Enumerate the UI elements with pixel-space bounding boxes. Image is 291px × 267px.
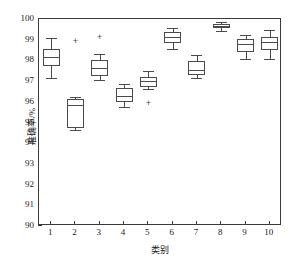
x-tick-label: 9 [234,228,256,237]
x-tick-mark [172,221,173,225]
x-tick-label: 5 [136,228,158,237]
x-axis-label: 类别 [38,243,281,256]
x-tick-mark [74,221,75,225]
x-tick-label: 10 [258,228,280,237]
median-line [261,42,278,43]
chart-root: 准确率/% 90919293949596979899100 +++ 123456… [0,0,291,267]
whisker-lower [270,50,271,59]
y-tick-label: 98 [4,55,34,64]
box-iqr [261,37,278,50]
x-tick-label: 4 [112,228,134,237]
x-tick-mark [220,221,221,225]
x-tick-label: 1 [39,228,61,237]
whisker-cap-upper [264,30,275,31]
x-tick-mark [269,221,270,225]
whisker-cap-lower [264,59,275,60]
y-tick-label: 94 [4,138,34,147]
y-tick-label: 99 [4,34,34,43]
box-plot-group[interactable] [39,19,280,224]
x-tick-label: 2 [63,228,85,237]
y-tick-label: 90 [4,221,34,230]
x-tick-label: 3 [88,228,110,237]
plot-area: +++ [38,18,281,225]
y-tick-label: 95 [4,117,34,126]
y-tick-label: 91 [4,200,34,209]
x-tick-label: 8 [209,228,231,237]
y-tick-label: 92 [4,179,34,188]
x-tick-mark [99,221,100,225]
x-tick-mark [50,221,51,225]
y-tick-label: 96 [4,96,34,105]
x-tick-label: 7 [185,228,207,237]
y-tick-label: 93 [4,158,34,167]
x-tick-mark [245,221,246,225]
x-tick-mark [123,221,124,225]
x-tick-label: 6 [161,228,183,237]
y-tick-label: 100 [4,14,34,23]
y-tick-mark [38,225,42,226]
y-tick-label: 97 [4,76,34,85]
x-tick-mark [196,221,197,225]
x-tick-mark [147,221,148,225]
